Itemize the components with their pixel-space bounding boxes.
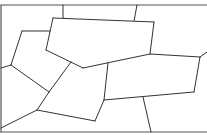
cell-edge-20 [104, 92, 194, 100]
cell-edge-2 [53, 18, 154, 22]
cell-partition-diagram [0, 0, 207, 135]
cell-edge-9 [1, 65, 11, 68]
cell-edge-17 [150, 54, 200, 57]
cell-edge-13 [1, 110, 37, 128]
cell-edge-18 [200, 52, 207, 57]
cell-edge-5 [46, 50, 83, 68]
cell-edge-21 [143, 97, 151, 132]
cell-edge-19 [194, 57, 200, 92]
cell-edge-3 [150, 22, 154, 54]
cell-edge-15 [95, 100, 104, 121]
cell-edge-12 [37, 92, 49, 110]
cell-edge-8 [11, 31, 22, 65]
cell-edge-14 [37, 110, 95, 121]
cell-edge-16 [104, 63, 108, 100]
cell-edge-6 [46, 18, 53, 50]
cell-edge-10 [11, 65, 49, 92]
cell-edge-11 [49, 62, 71, 92]
cell-edge-1 [134, 5, 137, 21]
cell-edges [1, 5, 207, 132]
cell-edge-4 [83, 54, 150, 68]
